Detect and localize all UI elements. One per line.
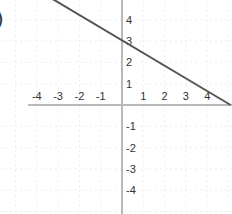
grid-lines xyxy=(0,0,232,214)
y-tick-label: 1 xyxy=(126,78,132,90)
x-tick-label: 2 xyxy=(162,90,168,102)
y-tick-label: -3 xyxy=(126,163,136,175)
y-tick-label: -4 xyxy=(126,184,136,196)
x-tick-label: 1 xyxy=(140,90,146,102)
problem-label-paren: ) xyxy=(0,7,4,31)
x-tick-label: -3 xyxy=(53,90,63,102)
coordinate-plane: -4-3-2-11234 4321-1-2-3-4 ) xyxy=(0,0,232,214)
y-tick-label: -2 xyxy=(126,142,136,154)
x-tick-label: -1 xyxy=(96,90,106,102)
x-tick-label: 3 xyxy=(183,90,189,102)
y-tick-label: -1 xyxy=(126,120,136,132)
x-tick-label: -4 xyxy=(32,90,42,102)
x-tick-label: -2 xyxy=(75,90,85,102)
y-tick-label: 4 xyxy=(126,14,132,26)
y-tick-label: 2 xyxy=(126,56,132,68)
